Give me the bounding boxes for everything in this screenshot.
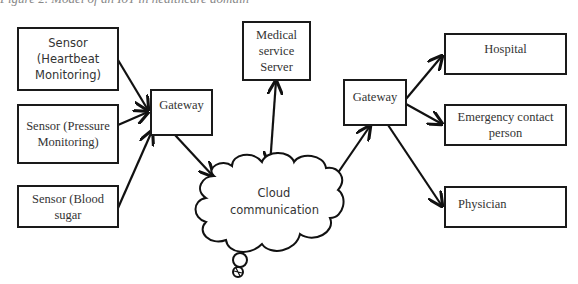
physician-box: Physician: [444, 186, 567, 228]
medical-server-label: Medical service Server: [251, 27, 303, 75]
hospital-box: Hospital: [444, 33, 567, 75]
emergency-box: Emergency contact person: [444, 104, 567, 146]
edge-blood-gateway: [118, 131, 152, 208]
gateway-right-box: Gateway: [343, 79, 407, 126]
emergency-label: Emergency contact person: [451, 109, 561, 141]
gateway-left-label: Gateway: [159, 97, 203, 113]
edge-gateway-emergency: [406, 104, 442, 124]
edge-gateway-physician: [388, 125, 442, 206]
sensor-heartbeat-label: Sensor (Heartbeat Monitoring): [28, 35, 108, 83]
medical-server-box: Medical service Server: [242, 21, 311, 81]
sensor-pressure-label: Sensor (Pressure Monitoring): [21, 118, 115, 150]
hospital-label: Hospital: [484, 41, 526, 57]
sensor-heartbeat-box: Sensor (Heartbeat Monitoring): [17, 27, 119, 91]
edge-gateway-cloud: [175, 135, 213, 176]
gateway-left-box: Gateway: [150, 89, 213, 136]
physician-label: Physician: [458, 196, 507, 212]
sensor-blood-label: Sensor (Blood sugar: [28, 191, 108, 223]
sensor-blood-box: Sensor (Blood sugar: [17, 185, 119, 228]
cloud-thought-bubble-large: [233, 253, 247, 267]
edge-heartbeat-gateway: [118, 60, 148, 110]
edge-pressure-gateway: [118, 112, 148, 125]
cloud-label: Cloud communication: [214, 185, 334, 219]
edge-gateway-hospital: [406, 56, 442, 99]
sensor-pressure-box: Sensor (Pressure Monitoring): [17, 104, 119, 164]
gateway-right-label: Gateway: [353, 89, 397, 105]
